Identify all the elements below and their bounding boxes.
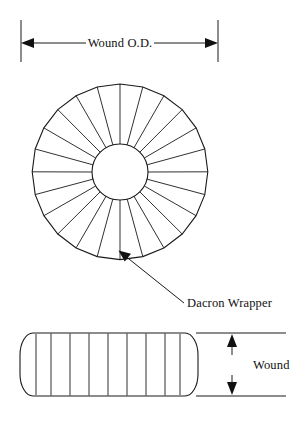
diagram-canvas: Wound O.D. [0,0,291,421]
arrow-left-icon [21,38,34,48]
wound-od-dimension-group: Wound O.D. [21,20,218,62]
side-view-body [20,333,198,396]
arrow-down-icon [227,382,237,395]
toroid-side-view [20,333,198,396]
toroid-inner-bore [92,144,148,200]
wound-ht-label: Wound Ht [253,358,291,372]
dacron-wrapper-label: Dacron Wrapper [187,296,273,310]
wound-od-label: Wound O.D. [88,36,153,50]
arrow-up-icon [227,334,237,347]
dacron-leader-line [124,255,184,303]
wound-ht-dimension-group: Wound Ht [196,333,291,396]
dacron-wrapper-callout: Dacron Wrapper [119,251,273,311]
toroid-top-view [32,84,208,260]
arrow-right-icon [205,38,218,48]
toroid-diagram-figure: Wound O.D. [0,0,291,421]
